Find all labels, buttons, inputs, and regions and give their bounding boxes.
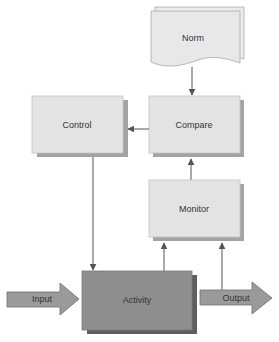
control-label: Control	[62, 120, 91, 130]
monitor-label: Monitor	[179, 204, 209, 214]
monitor-node: Monitor	[149, 180, 244, 241]
input-label: Input	[32, 294, 53, 304]
output-arrow: Output	[200, 282, 272, 314]
norm-node: Norm	[151, 7, 244, 66]
norm-label: Norm	[182, 33, 204, 43]
control-node: Control	[32, 96, 128, 157]
compare-node: Compare	[149, 96, 244, 157]
control-loop-diagram: Norm Compare Control Monitor Activity In…	[0, 0, 279, 342]
activity-node: Activity	[82, 271, 197, 334]
activity-label: Activity	[123, 295, 152, 305]
compare-label: Compare	[175, 120, 212, 130]
output-label: Output	[222, 293, 250, 303]
input-arrow: Input	[7, 283, 79, 315]
